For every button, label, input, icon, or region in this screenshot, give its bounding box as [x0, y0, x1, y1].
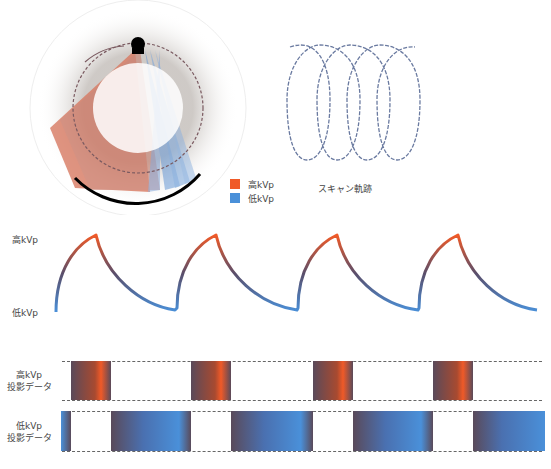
low-projection-block	[231, 411, 313, 451]
legend-swatch-low	[230, 193, 240, 203]
low-projection-block	[473, 411, 545, 451]
high-projection-block	[433, 361, 473, 400]
high-projection-block	[313, 361, 353, 400]
high-projection-label: 高kVp 投影データ	[3, 369, 55, 393]
low-row-bottom-line	[62, 451, 542, 452]
scan-trajectory	[285, 40, 425, 165]
high-projection-block	[71, 361, 111, 400]
bore	[93, 63, 183, 153]
legend-swatch-high	[230, 179, 240, 189]
legend: 高kVp 低kVp	[230, 177, 274, 205]
low-projection-block	[61, 411, 71, 451]
low-projection-block	[111, 411, 191, 451]
low-projection-label: 低kVp 投影データ	[3, 420, 55, 444]
legend-item-low: 低kVp	[230, 191, 274, 205]
kvp-waveform	[0, 220, 551, 330]
x-ray-tube-icon	[131, 37, 145, 54]
gantry-diagram	[0, 0, 250, 215]
high-row-bottom-line	[62, 400, 542, 401]
trajectory-caption: スキャン軌跡	[318, 182, 372, 195]
high-projection-block	[191, 361, 231, 400]
low-projection-block	[353, 411, 433, 451]
legend-item-high: 高kVp	[230, 177, 274, 191]
